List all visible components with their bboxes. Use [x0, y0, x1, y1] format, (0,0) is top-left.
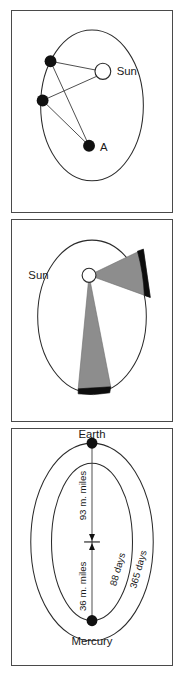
panel-periods: Earth Mercury 93 m. miles 36 m. miles 88…: [11, 428, 173, 666]
ray-planet1-to-sun: [51, 61, 97, 70]
focus-a-dot: [83, 140, 95, 152]
sun-marker: [95, 63, 111, 79]
distance-arrow-up: [89, 543, 95, 550]
panel-orbit-foci: Sun A: [11, 10, 173, 213]
swept-sector-lower: [78, 275, 111, 389]
distance-arrow-down: [89, 534, 95, 541]
mercury-distance-label: 36 m. miles: [77, 561, 88, 611]
figure-stack: Sun A Sun: [0, 0, 185, 676]
mercury-dot: [87, 615, 98, 626]
sun-marker: [82, 268, 96, 282]
sun-label: Sun: [117, 65, 137, 77]
ray-planet2-to-focus-a: [43, 100, 89, 145]
sun-label: Sun: [28, 269, 48, 281]
equal-areas-diagram: Sun: [12, 220, 172, 421]
planet-position-2-dot: [37, 94, 49, 106]
orbit-foci-diagram: Sun A: [12, 11, 172, 212]
ray-planet2-to-sun: [43, 75, 99, 100]
orbit-ellipse: [41, 30, 144, 181]
earth-label: Earth: [78, 429, 105, 440]
mercury-label: Mercury: [72, 635, 113, 647]
panel-equal-areas: Sun: [11, 219, 173, 422]
focus-a-label: A: [100, 141, 108, 153]
ray-planet1-to-focus-a: [51, 61, 90, 145]
planet-position-1-dot: [45, 55, 57, 67]
mercury-period-label: 88 days: [108, 551, 128, 587]
earth-period-label: 365 days: [128, 549, 149, 590]
earth-distance-label: 93 m. miles: [77, 471, 88, 521]
periods-diagram: Earth Mercury 93 m. miles 36 m. miles 88…: [12, 429, 172, 665]
